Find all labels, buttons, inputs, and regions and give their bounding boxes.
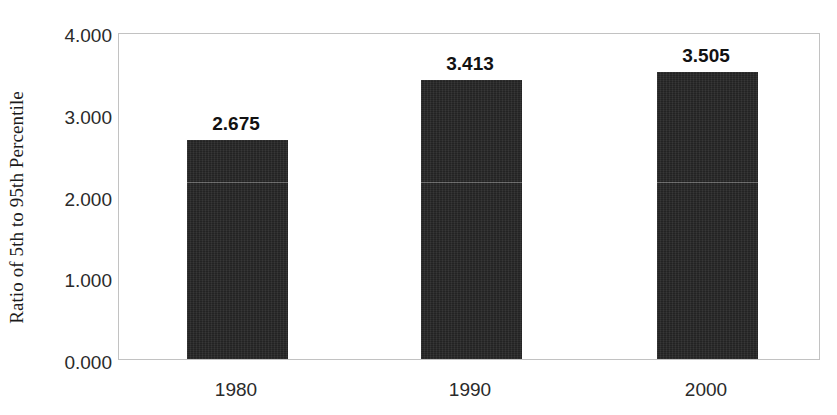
y-tick-label-1: 1.000 [40,271,112,290]
y-tick-label-3: 3.000 [40,108,112,127]
bar-value-label-2000: 3.505 [626,46,787,65]
bar-value-label-1990: 3.413 [390,54,551,73]
bar-2000 [657,72,758,359]
bar-chart: Ratio of 5th to 95th Percentile 4.000 3.… [0,0,837,415]
y-axis-tick-labels: 4.000 3.000 2.000 1.000 0.000 [38,0,112,415]
plot-area [118,33,820,360]
bar-value-label-1980: 2.675 [156,114,317,133]
x-tick-label-2000: 2000 [626,380,787,399]
y-axis-title: Ratio of 5th to 95th Percentile [0,0,34,415]
x-tick-label-1990: 1990 [390,380,551,399]
y-tick-label-4: 4.000 [40,26,112,45]
y-tick-label-0: 0.000 [40,353,112,372]
bar-1990 [421,80,522,359]
y-tick-label-2: 2.000 [40,190,112,209]
bar-1980 [187,140,288,359]
x-tick-label-1980: 1980 [156,380,317,399]
